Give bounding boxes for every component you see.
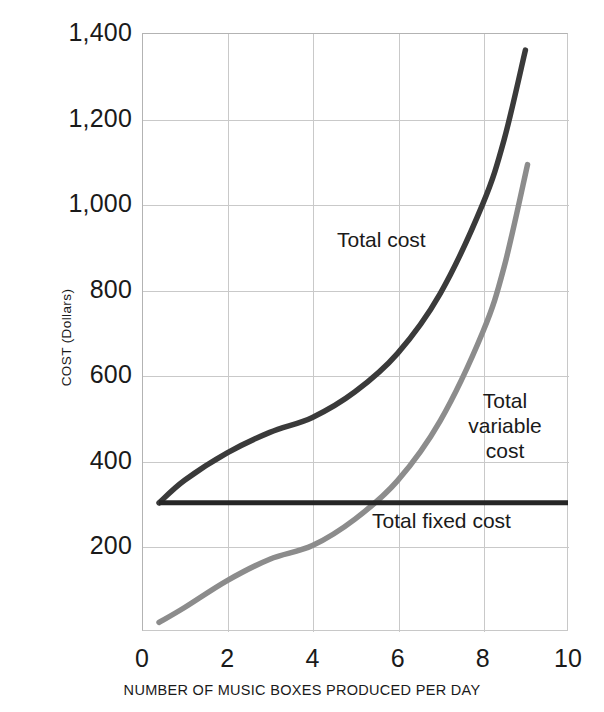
gridline-y-1200	[143, 120, 569, 121]
plot-area	[142, 33, 568, 631]
y-tick-200: 200	[12, 533, 132, 558]
y-axis-title: COST (Dollars)	[59, 248, 74, 428]
gridline-x-6	[399, 34, 400, 632]
series-label-total-variable-cost: Total variable cost	[455, 388, 555, 463]
y-tick-1200: 1,200	[12, 106, 132, 131]
x-tick-2: 2	[187, 646, 267, 671]
gridline-y-600	[143, 376, 569, 377]
cost-chart: 1,400 1,200 1,000 800 600 400 200 0 2 4 …	[0, 0, 604, 712]
y-tick-1400: 1,400	[12, 20, 132, 45]
x-tick-10: 10	[528, 646, 604, 671]
gridline-y-1000	[143, 205, 569, 206]
gridline-y-200	[143, 547, 569, 548]
gridline-x-4	[313, 34, 314, 632]
series-label-total-fixed-cost: Total fixed cost	[372, 508, 511, 533]
x-tick-0: 0	[102, 646, 182, 671]
series-label-total-cost: Total cost	[337, 227, 426, 252]
y-tick-1000: 1,000	[12, 191, 132, 216]
x-tick-8: 8	[443, 646, 523, 671]
gridline-x-8	[484, 34, 485, 632]
x-axis-title: NUMBER OF MUSIC BOXES PRODUCED PER DAY	[0, 682, 604, 698]
gridline-y-800	[143, 291, 569, 292]
y-tick-400: 400	[12, 448, 132, 473]
x-tick-6: 6	[358, 646, 438, 671]
gridline-x-2	[228, 34, 229, 632]
x-tick-4: 4	[272, 646, 352, 671]
